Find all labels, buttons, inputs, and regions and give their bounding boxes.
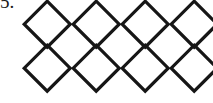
diamond-shape-grid (0, 0, 213, 103)
diamond-outline-path (171, 1, 213, 47)
diamond-outline-path (24, 45, 70, 91)
diamond-outline-path (122, 1, 168, 47)
diamond-outline-icon (21, 42, 73, 94)
worksheet-item: 5. (0, 0, 213, 103)
diamond-outline-icon (70, 42, 122, 94)
diamond-outline-path (73, 45, 119, 91)
diamond-outline-path (24, 1, 70, 47)
diamond-outline-path (73, 1, 119, 47)
diamond-outline-icon (119, 42, 171, 94)
diamond-outline-icon (168, 42, 213, 94)
diamond-outline-path (122, 45, 168, 91)
diamond-outline-path (171, 45, 213, 91)
